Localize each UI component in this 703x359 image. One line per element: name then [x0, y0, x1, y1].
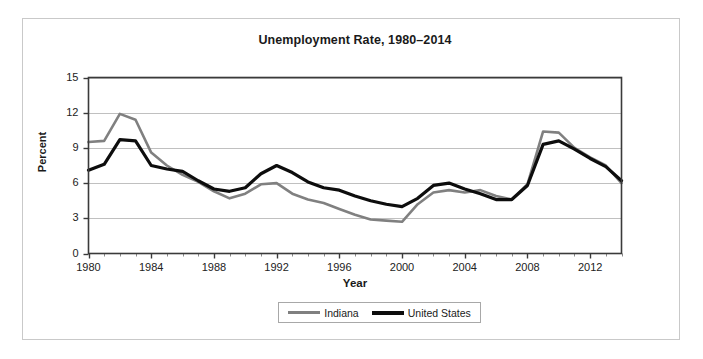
legend-item-united-states: United States: [372, 307, 471, 319]
chart-legend: Indiana United States: [278, 302, 481, 323]
data-series-group: [89, 114, 622, 222]
y-tick-label: 6: [47, 176, 79, 188]
y-tick-label: 3: [47, 211, 79, 223]
x-tick-label: 2000: [372, 261, 432, 273]
legend-label-united-states: United States: [408, 307, 471, 319]
x-tick-label: 2012: [560, 261, 620, 273]
y-tick-label: 0: [47, 247, 79, 259]
x-tick-label: 1996: [309, 261, 369, 273]
x-tick-label: 1980: [59, 261, 119, 273]
legend-item-indiana: Indiana: [288, 307, 358, 319]
x-tick-label: 1984: [121, 261, 181, 273]
legend-swatch-united-states-icon: [372, 311, 404, 315]
chart-figure: Unemployment Rate, 1980–2014 Percent Yea…: [0, 0, 703, 359]
y-tick-label: 9: [47, 141, 79, 153]
y-tick-label: 15: [47, 71, 79, 83]
y-tick-label: 12: [47, 106, 79, 118]
x-tick-label: 2004: [435, 261, 495, 273]
legend-swatch-indiana-icon: [288, 311, 320, 314]
legend-label-indiana: Indiana: [324, 307, 358, 319]
x-tick-label: 1992: [247, 261, 307, 273]
x-tick-label: 1988: [184, 261, 244, 273]
x-tick-label: 2008: [497, 261, 557, 273]
series-line-united-states: [89, 140, 622, 207]
